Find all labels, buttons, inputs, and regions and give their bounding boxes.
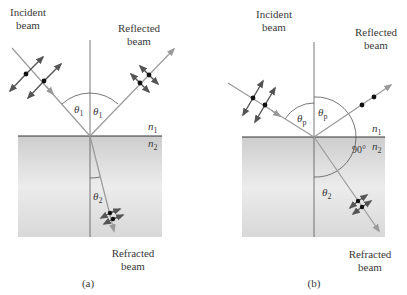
incident-ray-arrowhead xyxy=(46,86,53,94)
panel-caption: (a) xyxy=(82,277,95,290)
theta-1-reflected-label: θ1 xyxy=(93,105,102,120)
panel-b: Incident beam Reflected beam Refracted b… xyxy=(228,8,398,290)
incident-beam-label-line1: Incident xyxy=(256,8,292,20)
n1-label: n1 xyxy=(372,122,382,137)
n1-label: n1 xyxy=(148,120,158,135)
incident-beam-label-line2: beam xyxy=(16,19,40,31)
incident-ray xyxy=(228,83,314,137)
polarization-by-reflection-diagram: Incident beam Reflected beam Refracted b… xyxy=(0,0,407,295)
incident-ray-arrowhead xyxy=(272,111,280,116)
theta-1-incident-label: θ1 xyxy=(74,103,83,118)
refracted-beam-label-line2: beam xyxy=(121,260,145,272)
reflected-ray xyxy=(90,49,174,136)
reflected-beam-label-line2: beam xyxy=(127,35,151,47)
incident-beam-label-line1: Incident xyxy=(10,6,46,18)
incident-polarization-symbols xyxy=(10,57,61,98)
reflected-beam-label-line1: Reflected xyxy=(118,22,161,34)
reflected-beam-label-line1: Reflected xyxy=(355,26,398,38)
panel-a: Incident beam Reflected beam Refracted b… xyxy=(10,6,174,290)
angle-arc-reflected xyxy=(90,93,118,104)
theta-p-reflected-label: θp xyxy=(318,106,327,121)
refracted-beam-label-line1: Refracted xyxy=(349,248,392,260)
reflected-beam-label-line2: beam xyxy=(364,39,388,51)
refracted-beam-label-line1: Refracted xyxy=(112,247,155,259)
right-angle-label: 90° xyxy=(352,144,366,155)
incident-polarization-symbols xyxy=(243,81,275,122)
incident-beam-label-line2: beam xyxy=(262,21,286,33)
theta-p-incident-label: θp xyxy=(297,112,306,127)
panel-caption: (b) xyxy=(308,277,321,290)
refracted-beam-label-line2: beam xyxy=(358,261,382,273)
